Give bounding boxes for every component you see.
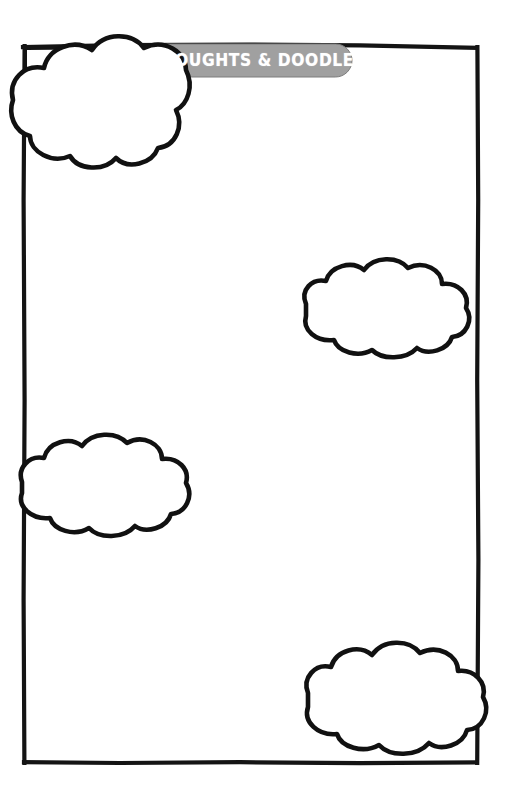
worksheet-artwork	[0, 0, 507, 807]
worksheet-page: THOUGHTS & DOODLES	[0, 0, 507, 807]
